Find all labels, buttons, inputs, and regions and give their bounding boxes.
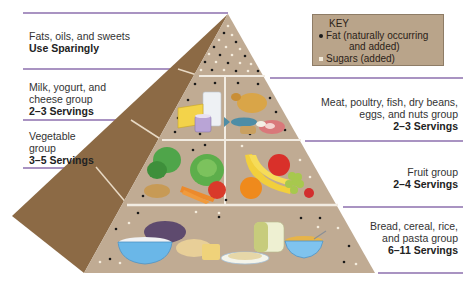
vegetable-servings: 3–5 Servings (29, 154, 94, 166)
key-item-fat-label: Fat (naturally occurring (326, 30, 428, 42)
fats-servings: Use Sparingly (29, 42, 130, 54)
pyramid-key: KEY Fat (naturally occurring and added) … (312, 14, 444, 66)
fruit-servings: 2–4 Servings (318, 178, 458, 190)
bread-name-line1: Bread, cereal, rice, (318, 220, 458, 232)
label-fruit: Fruit group 2–4 Servings (318, 166, 458, 190)
label-fats: Fats, oils, and sweets Use Sparingly (29, 30, 130, 54)
label-vegetable: Vegetable group 3–5 Servings (29, 130, 94, 166)
label-milk: Milk, yogurt, and cheese group 2–3 Servi… (29, 81, 106, 117)
white-dot-icon (319, 57, 323, 61)
vegetable-name-line2: group (29, 142, 94, 154)
key-item-fat-label-cont: and added) (319, 41, 437, 53)
black-dot-icon (319, 34, 323, 38)
meat-name-line1: Meat, poultry, fish, dry beans, (258, 96, 458, 108)
fats-name: Fats, oils, and sweets (29, 30, 130, 42)
vegetable-name-line1: Vegetable (29, 130, 94, 142)
meat-servings: 2–3 Servings (258, 120, 458, 132)
key-item-fat: Fat (naturally occurring (319, 30, 437, 42)
milk-name-line2: cheese group (29, 93, 106, 105)
key-title: KEY (319, 18, 437, 30)
fruit-name: Fruit group (318, 166, 458, 178)
key-item-sugar-label: Sugars (added) (326, 53, 395, 65)
milk-servings: 2–3 Servings (29, 105, 106, 117)
milk-name-line1: Milk, yogurt, and (29, 81, 106, 93)
label-bread: Bread, cereal, rice, and pasta group 6–1… (318, 220, 458, 256)
meat-name-line2: eggs, and nuts group (258, 108, 458, 120)
bread-name-line2: and pasta group (318, 232, 458, 244)
bread-servings: 6–11 Servings (318, 244, 458, 256)
key-item-sugar: Sugars (added) (319, 53, 437, 65)
label-meat: Meat, poultry, fish, dry beans, eggs, an… (258, 96, 458, 132)
